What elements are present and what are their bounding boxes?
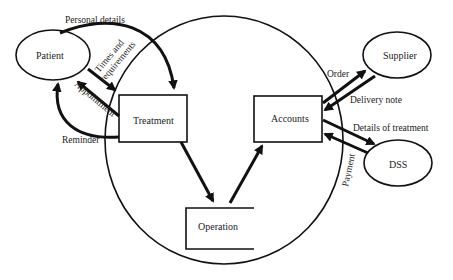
flow-treatment-to-operation — [181, 142, 213, 201]
flow-label-details-of-treatment: Details of treatment — [353, 123, 429, 133]
context-diagram: Patient Supplier DSS Treatment Accounts … — [0, 0, 453, 280]
process-accounts[interactable]: Accounts — [254, 96, 322, 142]
flow-label-personal-details: Personal details — [65, 15, 125, 25]
flow-label-reminder: Reminder — [62, 135, 100, 145]
treatment-label: Treatment — [133, 115, 174, 126]
operation-label: Operation — [198, 221, 238, 232]
flow-label-order: Order — [327, 69, 350, 79]
entity-dss[interactable]: DSS — [364, 140, 432, 186]
accounts-label: Accounts — [271, 113, 309, 124]
flow-operation-to-accounts — [230, 146, 262, 203]
patient-label: Patient — [36, 50, 64, 61]
entity-patient[interactable]: Patient — [16, 30, 90, 80]
process-treatment[interactable]: Treatment — [119, 95, 187, 142]
flow-label-delivery-note: Delivery note — [350, 95, 402, 105]
entity-supplier[interactable]: Supplier — [363, 32, 431, 78]
store-operation[interactable]: Operation — [186, 208, 254, 249]
supplier-label: Supplier — [383, 50, 418, 61]
dss-label: DSS — [389, 159, 407, 170]
flow-label-payment: Payment — [340, 152, 357, 187]
